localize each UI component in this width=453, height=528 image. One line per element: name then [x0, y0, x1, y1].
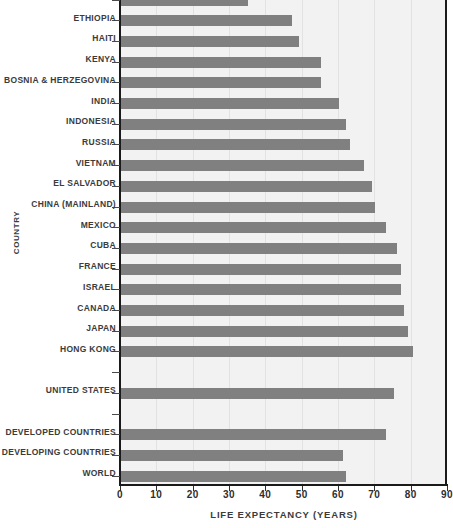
category-label: Bosnia & Herzegovina — [4, 75, 116, 85]
chart-row: Developed Countries — [0, 425, 448, 446]
chart-row: Zambia — [0, 0, 448, 11]
category-label: Japan — [86, 323, 116, 333]
chart-row: El Salvador — [0, 176, 448, 197]
chart-row: World — [0, 466, 448, 487]
chart-row: Developing Countries — [0, 445, 448, 466]
bar — [121, 450, 343, 461]
category-label: Developing Countries — [2, 447, 116, 457]
category-label: World — [82, 468, 116, 478]
category-label: El Salvador — [53, 178, 116, 188]
bar — [121, 346, 413, 357]
bar — [121, 57, 321, 68]
chart-row: Vietnam — [0, 156, 448, 177]
bar — [121, 202, 375, 213]
category-label: Indonesia — [66, 116, 116, 126]
category-label: Vietnam — [76, 158, 116, 168]
category-label: India — [91, 96, 116, 106]
category-label: Developed Countries — [5, 427, 116, 437]
x-axis-title: Life Expectancy (Years) — [120, 509, 448, 520]
category-label: France — [79, 261, 116, 271]
category-label: Haiti — [92, 33, 116, 43]
x-axis-tick-label: 30 — [223, 489, 235, 500]
chart-row: Cuba — [0, 238, 448, 259]
chart-row — [0, 363, 448, 384]
chart-row: Canada — [0, 301, 448, 322]
x-axis-tick-label: 60 — [332, 489, 344, 500]
chart-row: Russia — [0, 135, 448, 156]
category-label: Zambia — [81, 0, 116, 2]
bar — [121, 139, 350, 150]
chart-row: Bosnia & Herzegovina — [0, 73, 448, 94]
y-axis-title: Country — [12, 203, 21, 263]
bar — [121, 15, 292, 26]
y-axis-tick — [112, 372, 120, 373]
chart-row: France — [0, 259, 448, 280]
category-label: Ethiopia — [73, 13, 116, 23]
bar — [121, 222, 386, 233]
bar — [121, 264, 401, 275]
chart-row: Kenya — [0, 52, 448, 73]
category-label: Mexico — [81, 220, 116, 230]
chart-row: Mexico — [0, 218, 448, 239]
chart-row — [0, 404, 448, 425]
category-label: United States — [46, 385, 116, 395]
bar — [121, 181, 372, 192]
category-label: Kenya — [86, 54, 116, 64]
category-label: China (Mainland) — [31, 199, 116, 209]
bar — [121, 326, 408, 337]
category-label: Israel — [83, 282, 116, 292]
chart-row: Ethiopia — [0, 11, 448, 32]
category-label: Hong Kong — [60, 344, 116, 354]
chart-row: Haiti — [0, 31, 448, 52]
chart-row: Hong Kong — [0, 342, 448, 363]
x-axis-tick-label: 40 — [259, 489, 271, 500]
x-axis-tick-label: 90 — [441, 489, 453, 500]
x-axis-tick-label: 80 — [405, 489, 417, 500]
bar — [121, 77, 321, 88]
chart-row: United States — [0, 383, 448, 404]
x-axis-tick-label: 0 — [117, 489, 123, 500]
chart-row: Japan — [0, 321, 448, 342]
bar — [121, 0, 248, 6]
chart-row: Israel — [0, 280, 448, 301]
chart-row: India — [0, 94, 448, 115]
category-label: Canada — [77, 303, 116, 313]
bar — [121, 98, 339, 109]
y-axis-tick — [112, 414, 120, 415]
bar — [121, 160, 364, 171]
x-axis-tick-label: 20 — [187, 489, 199, 500]
category-label: Cuba — [90, 240, 116, 250]
bar — [121, 305, 404, 316]
chart-row: China (Mainland) — [0, 197, 448, 218]
chart-row: Indonesia — [0, 114, 448, 135]
bar — [121, 429, 386, 440]
bar — [121, 471, 346, 482]
bar — [121, 243, 397, 254]
x-axis-tick-label: 70 — [368, 489, 380, 500]
x-axis-tick-label: 50 — [296, 489, 308, 500]
bar — [121, 119, 346, 130]
bar — [121, 36, 299, 47]
bar — [121, 284, 401, 295]
x-axis-tick-label: 10 — [150, 489, 162, 500]
category-label: Russia — [82, 137, 116, 147]
bar — [121, 388, 394, 399]
